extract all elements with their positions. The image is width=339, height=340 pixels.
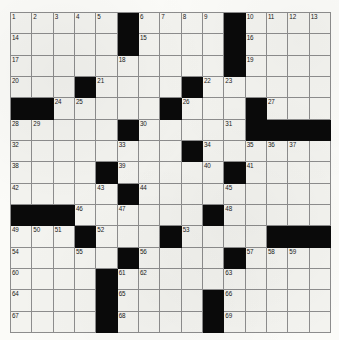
grid-cell[interactable]	[75, 184, 96, 205]
grid-cell[interactable]	[267, 312, 288, 333]
grid-cell[interactable]	[182, 290, 203, 311]
grid-cell[interactable]	[246, 269, 267, 290]
grid-cell[interactable]	[118, 226, 139, 247]
grid-cell[interactable]	[32, 34, 53, 55]
grid-cell[interactable]	[160, 56, 181, 77]
grid-cell[interactable]	[182, 162, 203, 183]
grid-cell[interactable]: 52	[96, 226, 117, 247]
grid-cell[interactable]	[75, 290, 96, 311]
grid-cell[interactable]	[75, 269, 96, 290]
grid-cell[interactable]	[32, 269, 53, 290]
grid-cell[interactable]: 39	[118, 162, 139, 183]
crossword-grid[interactable]: 1234567891011121314151617181920212223242…	[10, 12, 331, 333]
grid-cell[interactable]	[75, 312, 96, 333]
grid-cell[interactable]: 62	[139, 269, 160, 290]
grid-cell[interactable]: 29	[32, 120, 53, 141]
grid-cell[interactable]	[32, 56, 53, 77]
grid-cell[interactable]: 5	[96, 13, 117, 34]
grid-cell[interactable]	[139, 205, 160, 226]
grid-cell[interactable]	[288, 312, 309, 333]
grid-cell[interactable]: 47	[118, 205, 139, 226]
grid-cell[interactable]	[160, 248, 181, 269]
grid-cell[interactable]	[246, 312, 267, 333]
grid-cell[interactable]	[160, 77, 181, 98]
grid-cell[interactable]	[160, 120, 181, 141]
grid-cell[interactable]	[54, 184, 75, 205]
grid-cell[interactable]: 49	[11, 226, 32, 247]
grid-cell[interactable]: 42	[11, 184, 32, 205]
grid-cell[interactable]: 53	[182, 226, 203, 247]
grid-cell[interactable]: 55	[75, 248, 96, 269]
grid-cell[interactable]	[267, 205, 288, 226]
grid-cell[interactable]	[310, 248, 331, 269]
grid-cell[interactable]	[118, 98, 139, 119]
grid-cell[interactable]	[54, 77, 75, 98]
grid-cell[interactable]: 10	[246, 13, 267, 34]
grid-cell[interactable]	[224, 141, 245, 162]
grid-cell[interactable]	[246, 290, 267, 311]
grid-cell[interactable]	[118, 77, 139, 98]
grid-cell[interactable]	[54, 141, 75, 162]
grid-cell[interactable]: 46	[75, 205, 96, 226]
grid-cell[interactable]: 18	[118, 56, 139, 77]
grid-cell[interactable]	[310, 98, 331, 119]
grid-cell[interactable]: 9	[203, 13, 224, 34]
grid-cell[interactable]: 22	[203, 77, 224, 98]
grid-cell[interactable]	[267, 56, 288, 77]
grid-cell[interactable]	[246, 226, 267, 247]
grid-cell[interactable]	[160, 34, 181, 55]
grid-cell[interactable]	[182, 312, 203, 333]
grid-cell[interactable]	[160, 205, 181, 226]
grid-cell[interactable]	[32, 290, 53, 311]
grid-cell[interactable]: 6	[139, 13, 160, 34]
grid-cell[interactable]: 44	[139, 184, 160, 205]
grid-cell[interactable]	[310, 141, 331, 162]
grid-cell[interactable]: 60	[11, 269, 32, 290]
grid-cell[interactable]	[310, 77, 331, 98]
grid-cell[interactable]: 38	[11, 162, 32, 183]
grid-cell[interactable]	[75, 56, 96, 77]
grid-cell[interactable]: 58	[267, 248, 288, 269]
grid-cell[interactable]: 43	[96, 184, 117, 205]
grid-cell[interactable]	[310, 34, 331, 55]
grid-cell[interactable]	[54, 290, 75, 311]
grid-cell[interactable]: 31	[224, 120, 245, 141]
grid-cell[interactable]: 51	[54, 226, 75, 247]
grid-cell[interactable]	[139, 312, 160, 333]
grid-cell[interactable]: 8	[182, 13, 203, 34]
grid-cell[interactable]	[139, 226, 160, 247]
grid-cell[interactable]	[310, 290, 331, 311]
grid-cell[interactable]	[139, 162, 160, 183]
grid-cell[interactable]: 33	[118, 141, 139, 162]
grid-cell[interactable]: 21	[96, 77, 117, 98]
grid-cell[interactable]: 64	[11, 290, 32, 311]
grid-cell[interactable]: 4	[75, 13, 96, 34]
grid-cell[interactable]	[203, 34, 224, 55]
grid-cell[interactable]: 59	[288, 248, 309, 269]
grid-cell[interactable]	[288, 205, 309, 226]
grid-cell[interactable]	[54, 34, 75, 55]
grid-cell[interactable]: 19	[246, 56, 267, 77]
grid-cell[interactable]	[182, 56, 203, 77]
grid-cell[interactable]	[32, 77, 53, 98]
grid-cell[interactable]	[32, 184, 53, 205]
grid-cell[interactable]: 17	[11, 56, 32, 77]
grid-cell[interactable]	[54, 56, 75, 77]
grid-cell[interactable]	[182, 248, 203, 269]
grid-cell[interactable]: 36	[267, 141, 288, 162]
grid-cell[interactable]	[160, 290, 181, 311]
grid-cell[interactable]: 7	[160, 13, 181, 34]
grid-cell[interactable]: 11	[267, 13, 288, 34]
grid-cell[interactable]	[288, 98, 309, 119]
grid-cell[interactable]	[54, 248, 75, 269]
grid-cell[interactable]	[182, 184, 203, 205]
grid-cell[interactable]: 20	[11, 77, 32, 98]
grid-cell[interactable]	[139, 56, 160, 77]
grid-cell[interactable]	[96, 141, 117, 162]
grid-cell[interactable]	[75, 162, 96, 183]
grid-cell[interactable]: 2	[32, 13, 53, 34]
grid-cell[interactable]: 23	[224, 77, 245, 98]
grid-cell[interactable]: 1	[11, 13, 32, 34]
grid-cell[interactable]	[96, 248, 117, 269]
grid-cell[interactable]	[32, 248, 53, 269]
